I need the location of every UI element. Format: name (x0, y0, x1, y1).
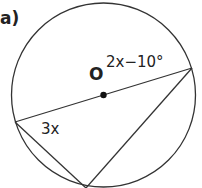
circle-diagram (0, 0, 202, 188)
angle-label-right: 2x−10° (106, 55, 164, 70)
center-point (100, 92, 106, 98)
chord-right (86, 68, 192, 188)
part-label: a) (0, 10, 19, 27)
center-label: O (89, 66, 103, 83)
angle-label-left: 3x (41, 122, 59, 137)
